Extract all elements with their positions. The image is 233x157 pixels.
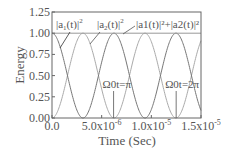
arrow-a1: [60, 32, 70, 48]
label-sum: |a1(t)|²+|a2(t)|²: [136, 18, 200, 31]
label-a1: |a1(t)|2: [56, 17, 83, 32]
y-tick-label: 0.25: [29, 90, 50, 104]
y-tick-label: 1.25: [29, 5, 50, 19]
x-tick-label: 5.0x10-6: [82, 118, 122, 133]
y-tick-label: 0.75: [29, 47, 50, 61]
y-tick-label: 1.00: [29, 26, 50, 40]
annotation-1: Ω0t=2π: [165, 78, 199, 90]
curve-a2: [52, 33, 201, 118]
x-axis-label: Time (Sec): [98, 133, 156, 148]
label-a2: |a2(t)|2: [97, 17, 124, 32]
y-tick-label: 0.50: [29, 69, 50, 83]
plot-area: |a1(t)|2|a2(t)|2|a1(t)|²+|a2(t)|²Ω0t=πΩ0…: [52, 17, 201, 118]
x-tick-label: 1.5x10-5: [181, 118, 221, 133]
y-axis-label: Energy: [12, 46, 27, 84]
curve-a1: [52, 33, 201, 118]
energy-chart: |a1(t)|2|a2(t)|2|a1(t)|²+|a2(t)|²Ω0t=πΩ0…: [0, 0, 233, 157]
arrow-a2: [90, 32, 100, 44]
x-tick-label: 1.0x10-5: [131, 118, 171, 133]
x-tick-label: 0.0: [45, 119, 60, 133]
annotation-0: Ω0t=π: [103, 78, 132, 90]
